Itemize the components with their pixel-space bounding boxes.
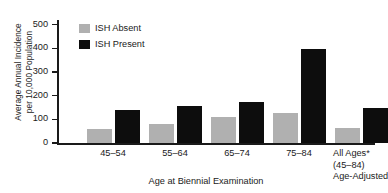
x-axis-labels: Age at Biennial Examination 45–5455–6465… [57, 148, 375, 193]
bar [211, 117, 236, 143]
bar [149, 124, 174, 143]
x-axis-category-label: 75–84 [259, 148, 339, 160]
x-axis-group-label: 75–84 [259, 148, 339, 160]
bar [301, 49, 326, 144]
x-axis-category-label: All Ages* [333, 148, 388, 160]
x-axis-group-label: All Ages*(45–84)Age-Adjusted [333, 148, 388, 183]
y-axis-tick-label: 500 [18, 20, 48, 29]
y-axis-tick-label: 0 [18, 138, 48, 147]
bar [363, 108, 388, 143]
bar [177, 106, 202, 144]
y-axis-tick-label: 300 [18, 67, 48, 76]
bars-layer [57, 20, 375, 143]
bar [87, 129, 112, 143]
y-axis-tick-label: 200 [18, 91, 48, 100]
x-axis-title: Age at Biennial Examination [126, 177, 286, 186]
bar [335, 128, 360, 143]
bar [273, 113, 298, 144]
x-axis-category-sublabel: (45–84) [333, 160, 388, 172]
bar [115, 110, 140, 143]
y-axis-tick-label: 400 [18, 43, 48, 52]
bar [239, 102, 264, 143]
x-axis-category-sublabel: Age-Adjusted [333, 171, 388, 183]
y-axis-tick-label: 100 [18, 114, 48, 123]
